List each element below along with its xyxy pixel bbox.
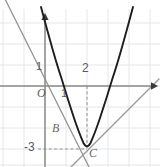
x-tick-label-2: 2 xyxy=(82,63,89,74)
y-tick-label-minus3: -3 xyxy=(24,142,35,153)
y-tick-label-1: 1 xyxy=(36,61,42,72)
line-ascending xyxy=(71,79,159,167)
x-tick-label-1: 1 xyxy=(61,88,67,99)
graph-figure: 1 2 1 O -3 B C xyxy=(0,0,160,167)
point-label-B: B xyxy=(52,123,59,134)
point-label-C: C xyxy=(89,148,97,159)
origin-label: O xyxy=(37,88,46,99)
axes xyxy=(0,18,151,167)
